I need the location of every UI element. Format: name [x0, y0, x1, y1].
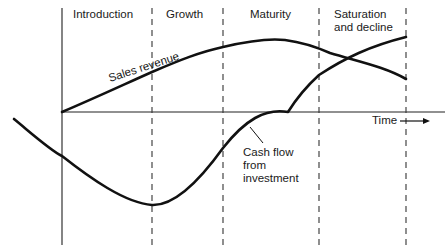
cash-flow-curve [14, 37, 406, 205]
phase-label-growth: Growth [166, 8, 203, 21]
cash-flow-label: Cash flow from investment [243, 146, 299, 185]
time-arrow-icon [423, 118, 430, 124]
phase-label-introduction: Introduction [73, 8, 133, 21]
phase-label-saturation-decline: Saturation and decline [334, 8, 393, 34]
phase-label-maturity: Maturity [250, 8, 291, 21]
product-life-cycle-diagram: Sales revenue Introduction Growth Maturi… [0, 0, 446, 252]
cash-flow-leader [250, 127, 263, 143]
sales-revenue-label: Sales revenue [107, 50, 181, 84]
time-axis-label: Time [372, 114, 397, 127]
